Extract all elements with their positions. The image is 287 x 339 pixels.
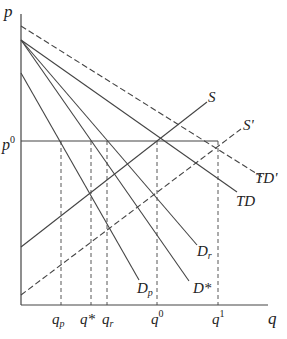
supply-demand-diagram: p q p0 S S' TD' TD Dr D* Dp qp q* qr q0 … bbox=[0, 0, 287, 339]
dstar-curve bbox=[21, 40, 189, 281]
q0-tick-label: q0 bbox=[151, 308, 164, 327]
s-prime-curve bbox=[21, 129, 241, 295]
dr-curve bbox=[21, 40, 197, 245]
x-axis-label: q bbox=[268, 309, 277, 328]
td-prime-curve bbox=[21, 26, 262, 177]
td-curve bbox=[21, 40, 237, 192]
td-label: TD bbox=[236, 193, 255, 209]
s-label: S bbox=[208, 89, 216, 105]
s-prime-label: S' bbox=[243, 117, 255, 133]
dp-label: Dp bbox=[136, 280, 153, 298]
dp-curve bbox=[21, 73, 139, 280]
qp-tick-label: qp bbox=[52, 311, 65, 329]
p0-label: p0 bbox=[1, 134, 15, 154]
dstar-label: D* bbox=[192, 280, 212, 296]
qr-tick-label: qr bbox=[102, 311, 114, 329]
td-prime-label: TD' bbox=[255, 170, 278, 186]
s-curve bbox=[21, 102, 207, 247]
qstar-tick-label: q* bbox=[80, 311, 96, 327]
y-axis-label: p bbox=[3, 2, 13, 21]
dr-label: Dr bbox=[196, 243, 212, 261]
q1-tick-label: q1 bbox=[212, 308, 225, 327]
